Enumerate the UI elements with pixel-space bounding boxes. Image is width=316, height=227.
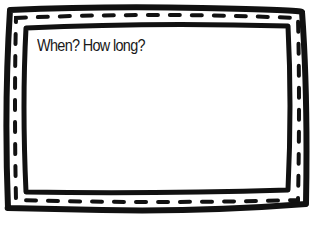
card-prompt-text: When? How long? — [37, 36, 145, 56]
